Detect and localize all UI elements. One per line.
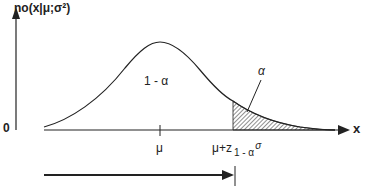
quantile-label: μ+z1 - ασ bbox=[212, 141, 261, 155]
quantile-base: μ+z bbox=[212, 141, 232, 155]
x-axis-label: x bbox=[353, 121, 360, 136]
tail-area-label: α bbox=[258, 64, 265, 78]
x-axis-arrow-icon bbox=[338, 125, 350, 135]
normal-distribution-diagram bbox=[0, 0, 370, 192]
y-axis-label: no(x|μ;σ²) bbox=[14, 1, 70, 15]
tail-area bbox=[233, 101, 335, 130]
quantile-subscript: 1 - α bbox=[234, 147, 254, 158]
density-curve bbox=[44, 42, 335, 130]
origin-label: 0 bbox=[3, 121, 10, 135]
body-area-label: 1 - α bbox=[144, 74, 168, 88]
mean-label: μ bbox=[156, 141, 163, 155]
alpha-pointer bbox=[247, 80, 261, 112]
quantile-sigma: σ bbox=[255, 140, 261, 151]
cumulative-arrow-icon bbox=[222, 170, 234, 180]
